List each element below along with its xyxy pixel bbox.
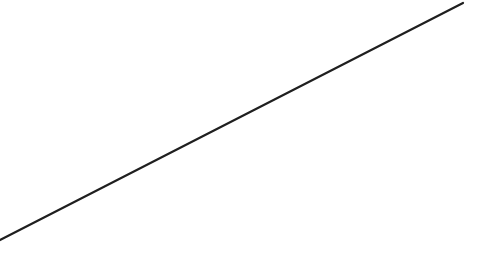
canvas-background [0, 0, 504, 275]
drawing-canvas [0, 0, 504, 275]
